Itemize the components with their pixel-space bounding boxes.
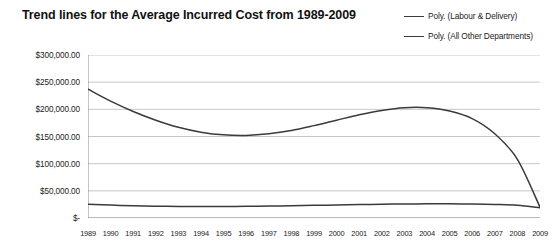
- x-axis-tick-label: 1994: [193, 229, 209, 238]
- y-axis-tick-label: $200,000.00: [36, 105, 80, 114]
- x-axis-tick-label: 2003: [397, 229, 413, 238]
- x-axis-tick-label: 1995: [216, 229, 232, 238]
- x-axis-tick-label: 2007: [487, 229, 503, 238]
- chart-plot-svg: [88, 55, 540, 218]
- chart-legend: Poly. (Labour & Delivery) Poly. (All Oth…: [404, 6, 554, 46]
- x-axis-tick-label: 2005: [442, 229, 458, 238]
- x-axis-tick-label: 2006: [464, 229, 480, 238]
- legend-item-label: Poly. (Labour & Delivery): [428, 11, 517, 21]
- y-axis-tick-label: $250,000.00: [36, 78, 80, 87]
- x-axis-tick-label: 2004: [419, 229, 435, 238]
- x-axis-tick-label: 1991: [125, 229, 141, 238]
- x-axis-tick-label: 1997: [261, 229, 277, 238]
- x-axis-tick-label: 1998: [284, 229, 300, 238]
- legend-item[interactable]: Poly. (All Other Departments): [404, 26, 554, 46]
- y-axis-tick-labels: $-$50,000.00$100,000.00$150,000.00$200,0…: [0, 48, 80, 226]
- x-axis-tick-label: 2008: [510, 229, 526, 238]
- gridlines: [88, 55, 540, 218]
- chart-container: Trend lines for the Average Incurred Cos…: [0, 0, 555, 245]
- x-axis-tick-label: 2001: [351, 229, 367, 238]
- y-axis-tick-label: $150,000.00: [36, 132, 80, 141]
- x-axis-tick-label: 1989: [80, 229, 96, 238]
- x-axis-tick-label: 2009: [532, 229, 548, 238]
- x-axis-tick-label: 1993: [171, 229, 187, 238]
- series-line-0[interactable]: [88, 89, 540, 207]
- x-axis-tick-label: 1999: [306, 229, 322, 238]
- x-axis-tick-label: 2002: [374, 229, 390, 238]
- plot-area: [88, 55, 540, 218]
- y-axis-tick-label: $-: [73, 214, 80, 223]
- x-axis-tick-label: 1996: [238, 229, 254, 238]
- x-axis-tick-labels: 1989199019911992199319941995199619971998…: [88, 228, 540, 242]
- y-axis-tick-label: $50,000.00: [40, 186, 80, 195]
- legend-item[interactable]: Poly. (Labour & Delivery): [404, 6, 554, 26]
- y-axis-tick-label: $300,000.00: [36, 51, 80, 60]
- y-axis-tick-label: $100,000.00: [36, 159, 80, 168]
- x-axis-tick-label: 1990: [103, 229, 119, 238]
- line-swatch-icon: [404, 16, 424, 17]
- series-line-1[interactable]: [88, 204, 540, 208]
- x-axis-tick-label: 1992: [148, 229, 164, 238]
- chart-title: Trend lines for the Average Incurred Cos…: [22, 8, 356, 22]
- line-swatch-icon: [404, 36, 424, 37]
- x-axis-tick-label: 2000: [329, 229, 345, 238]
- legend-item-label: Poly. (All Other Departments): [428, 31, 533, 41]
- data-series-group: [88, 89, 540, 207]
